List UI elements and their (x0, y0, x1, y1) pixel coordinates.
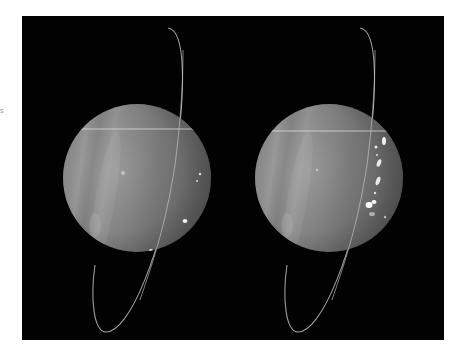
right-planet (255, 28, 403, 332)
left-planet (63, 28, 211, 332)
uranus-illustration (0, 0, 462, 356)
